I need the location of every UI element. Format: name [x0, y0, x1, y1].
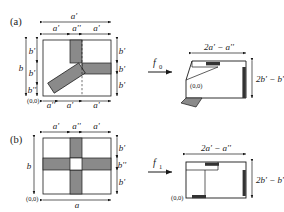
panel-a: (a) a' a' a'' a' b — [10, 11, 284, 110]
panel-b-map-subscript: 1 — [159, 163, 162, 170]
panel-b-target-origin: (0,0) — [171, 194, 183, 202]
panel-a-top-seg2-label: a'' — [72, 23, 81, 33]
panel-a-left-total-label: b — [19, 63, 24, 73]
panel-a-target-bar-right — [242, 67, 245, 98]
panel-b-label: (b) — [10, 134, 23, 146]
panel-a-left-seg2-label: b' — [29, 68, 37, 78]
panel-a-target-height-label: 2b' − b'' — [256, 74, 284, 84]
panel-b-right-seg2-label: b'' — [118, 160, 127, 170]
panel-a-map-label: f — [153, 57, 157, 68]
panel-a-top-total-label: a' — [71, 11, 79, 21]
panel-a-top-seg3-label: a' — [93, 23, 101, 33]
panel-b-left-total-label: b — [27, 161, 32, 171]
panel-a-bottom-seg1-label: a'' — [47, 100, 56, 110]
panel-a-top-seg1-label: a' — [53, 23, 61, 33]
figure-root: (a) a' a' a'' a' b — [0, 0, 284, 212]
panel-a-bottom-seg2-label: a' — [67, 100, 75, 110]
panel-a-label: (a) — [10, 16, 22, 28]
panel-b-source-origin: (0,0) — [26, 195, 38, 203]
panel-a-target-bar-top — [206, 62, 220, 65]
figure-canvas: (a) a' a' a'' a' b — [0, 0, 284, 212]
panel-b-target-bar-right — [243, 170, 246, 196]
panel-b: (b) a' a'' a' b b' b'' — [10, 121, 284, 210]
panel-a-piece-horizontal — [82, 63, 111, 74]
panel-b-center-square — [70, 158, 82, 170]
panel-b-target-shape — [186, 162, 246, 198]
panel-a-left-seg1-label: b' — [29, 46, 37, 56]
panel-a-target-width-label: 2a' − a'' — [204, 42, 235, 52]
panel-a-target-shape — [186, 61, 246, 98]
panel-b-top-seg3-label: a' — [93, 121, 101, 131]
panel-b-target-bar-bottom — [192, 195, 206, 198]
panel-a-right-seg1-label: b' — [119, 46, 127, 56]
panel-a-map-subscript: 0 — [159, 63, 162, 70]
panel-b-right-seg1-label: b' — [119, 143, 127, 153]
panel-a-bottom-seg3-label: a' — [93, 100, 101, 110]
panel-b-top-seg2-label: a'' — [72, 121, 81, 131]
panel-b-target-width-label: 2a' − a'' — [201, 143, 232, 153]
panel-a-piece-vertical — [70, 40, 82, 63]
panel-a-source-origin: (0,0) — [27, 97, 39, 105]
panel-a-target-origin: (0,0) — [190, 82, 202, 90]
panel-a-target-tab — [181, 98, 202, 107]
panel-b-top-seg1-label: a' — [53, 121, 61, 131]
panel-b-right-seg3-label: b' — [119, 177, 127, 187]
panel-a-right-seg3-label: b' — [119, 80, 127, 90]
panel-b-bottom-total-label: a — [75, 200, 80, 210]
panel-b-target-bar-top — [205, 163, 219, 166]
panel-a-left-seg3-label: b'' — [28, 85, 37, 95]
panel-b-target-height-label: 2b' − b'' — [256, 175, 284, 185]
panel-a-right-seg2-label: b' — [119, 64, 127, 74]
panel-b-map-label: f — [153, 157, 157, 168]
